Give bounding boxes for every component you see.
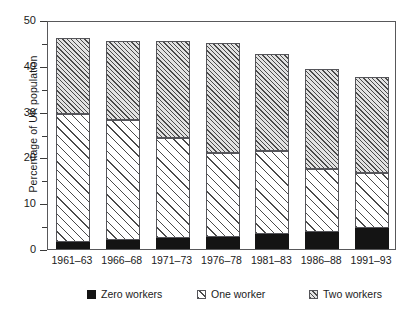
x-tick-label: 1976–78 <box>201 254 242 266</box>
legend-label: Two workers <box>323 288 382 300</box>
bar-segment-one-worker[interactable] <box>355 173 389 228</box>
y-tick-label-50: 50 <box>0 14 36 26</box>
y-axis-title: Percentage of UK population <box>27 29 39 219</box>
bar-segment-one-worker[interactable] <box>255 151 289 233</box>
y-tick-30 <box>40 113 47 114</box>
x-tick-label: 1986–88 <box>301 254 342 266</box>
x-tick-label: 1991–93 <box>351 254 392 266</box>
bar-segment-zero-workers[interactable] <box>106 240 140 249</box>
bar-segment-two-workers[interactable] <box>255 54 289 151</box>
legend-label: One worker <box>211 288 265 300</box>
y-tick-label-0: 0 <box>0 243 36 255</box>
bar-segment-one-worker[interactable] <box>56 114 90 242</box>
y-tick-10 <box>40 204 47 205</box>
chart-figure: Percentage of UK population 01020304050 … <box>0 0 414 316</box>
bar-segment-one-worker[interactable] <box>206 153 240 237</box>
bar-segment-two-workers[interactable] <box>156 41 190 139</box>
x-tick-label: 1971–73 <box>151 254 192 266</box>
y-tick-20 <box>40 158 47 159</box>
bar-segment-zero-workers[interactable] <box>156 238 190 249</box>
y-tick-label-10: 10 <box>0 197 36 209</box>
bar-segment-two-workers[interactable] <box>305 69 339 169</box>
plot-area <box>47 21 396 250</box>
y-tick-0 <box>40 250 47 251</box>
y-tick-50 <box>40 21 47 22</box>
x-tick-label: 1981–83 <box>251 254 292 266</box>
chart-legend: Zero workersOne workerTwo workers <box>47 288 396 304</box>
legend-item-two[interactable]: Two workers <box>309 288 382 300</box>
x-tick-label: 1966–68 <box>101 254 142 266</box>
bar-segment-one-worker[interactable] <box>156 138 190 238</box>
bar-segment-two-workers[interactable] <box>106 41 140 120</box>
bar-segment-two-workers[interactable] <box>206 43 240 153</box>
legend-swatch-two-icon <box>309 290 318 299</box>
bars-container <box>48 22 395 249</box>
legend-swatch-zero-icon <box>87 290 96 299</box>
y-tick-40 <box>40 67 47 68</box>
bar-segment-zero-workers[interactable] <box>255 234 289 249</box>
bar-group[interactable] <box>255 20 289 249</box>
legend-label: Zero workers <box>101 288 162 300</box>
bar-group[interactable] <box>206 20 240 249</box>
y-tick-label-20: 20 <box>0 151 36 163</box>
y-tick-label-30: 30 <box>0 106 36 118</box>
y-tick-label-40: 40 <box>0 60 36 72</box>
legend-item-zero[interactable]: Zero workers <box>87 288 162 300</box>
bar-segment-zero-workers[interactable] <box>206 237 240 249</box>
bar-segment-one-worker[interactable] <box>305 169 339 232</box>
legend-item-one[interactable]: One worker <box>197 288 265 300</box>
bar-segment-zero-workers[interactable] <box>355 228 389 249</box>
bar-group[interactable] <box>355 20 389 249</box>
bar-group[interactable] <box>156 20 190 249</box>
bar-segment-zero-workers[interactable] <box>305 232 339 249</box>
bar-group[interactable] <box>305 20 339 249</box>
bar-group[interactable] <box>106 20 140 249</box>
bar-segment-two-workers[interactable] <box>56 38 90 114</box>
legend-swatch-one-icon <box>197 290 206 299</box>
bar-group[interactable] <box>56 20 90 249</box>
bar-segment-one-worker[interactable] <box>106 120 140 240</box>
bar-segment-zero-workers[interactable] <box>56 242 90 249</box>
bar-segment-two-workers[interactable] <box>355 77 389 172</box>
x-tick-label: 1961–63 <box>51 254 92 266</box>
